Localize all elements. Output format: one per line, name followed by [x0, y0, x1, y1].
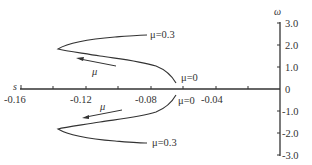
x-tick-label: -0.08	[135, 94, 157, 105]
lower-arrow-label: μ	[99, 101, 105, 112]
lower-end-label: μ=0.3	[152, 137, 177, 148]
x-tick-label: -0.04	[201, 94, 224, 105]
upper-locus-curve	[58, 35, 176, 83]
x-axis-label: s	[13, 81, 17, 92]
x-tick-label: -0.16	[4, 94, 26, 105]
y-tick-label: 1.0	[285, 62, 298, 73]
upper-direction-arrow-icon	[76, 57, 116, 66]
y-tick-label: 3.0	[285, 18, 298, 29]
y-tick-label: -2.0	[282, 128, 299, 139]
y-tick-label: 2.0	[285, 40, 298, 51]
y-tick-label: -3.0	[282, 150, 299, 161]
upper-start-label: μ=0	[181, 72, 198, 83]
y-tick-label: 0	[285, 84, 290, 95]
lower-start-label: μ=0	[178, 95, 195, 106]
x-tick-label: -0.12	[70, 94, 92, 105]
upper-end-label: μ=0.3	[150, 29, 175, 40]
y-tick-label: -1.0	[282, 106, 299, 117]
upper-arrow-label: μ	[91, 66, 97, 77]
root-locus-chart: s ω -0.16 -0.12 -0.08 -0.04 3.0 2.0 1.0 …	[0, 0, 312, 165]
y-axis-label: ω	[274, 6, 281, 17]
